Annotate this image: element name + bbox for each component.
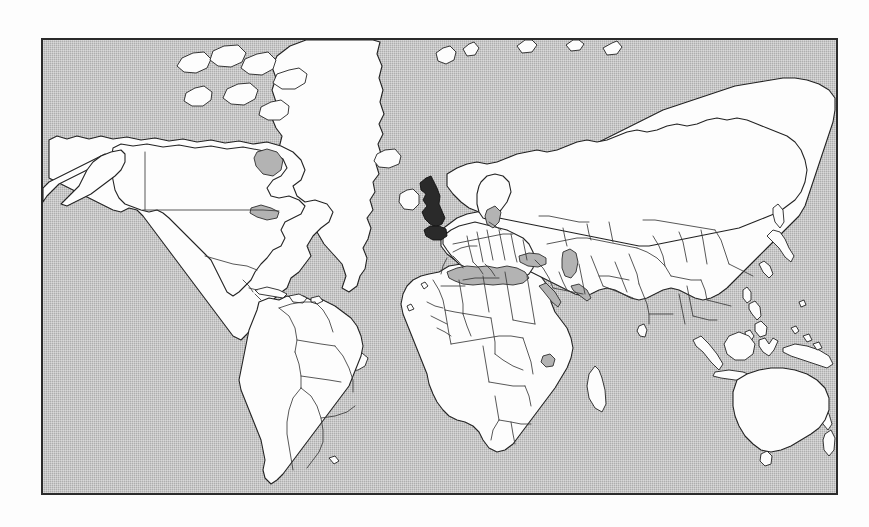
landmass-south-america: [239, 296, 363, 484]
island-new-guinea: [783, 344, 833, 368]
island-tasmania: [760, 451, 772, 466]
world-map-svg: [43, 40, 836, 493]
island-sri-lanka: [637, 324, 647, 337]
island-japan: [767, 230, 794, 262]
world-map-frame: [41, 38, 838, 495]
island-ireland: [399, 189, 419, 210]
landmass-arctic-islands: [436, 40, 622, 64]
island-sumatra: [693, 336, 723, 370]
island-philippines: [749, 301, 761, 320]
page-root: World map with highlighted country equir…: [0, 0, 869, 527]
highlighted-country-united-kingdom[interactable]: [420, 176, 447, 240]
island-madagascar: [587, 366, 606, 412]
landmass-australia: [733, 368, 829, 452]
